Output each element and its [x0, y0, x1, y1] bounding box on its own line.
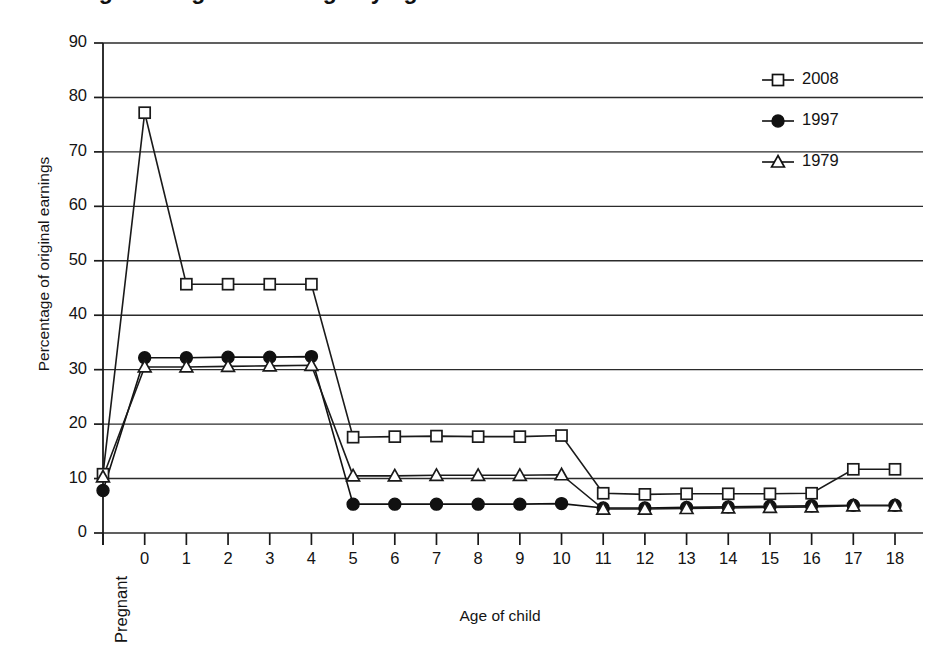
data-marker-filled-circle: [389, 498, 401, 510]
data-marker-open-square: [431, 431, 442, 442]
data-marker-open-square: [723, 488, 734, 499]
x-tick-label-9: 9: [500, 549, 540, 568]
data-marker-filled-circle: [430, 498, 442, 510]
data-marker-open-square: [764, 488, 775, 499]
x-tick-label-8: 8: [458, 549, 498, 568]
legend-label-2008: 2008: [802, 69, 839, 88]
x-tick-label-10: 10: [542, 549, 582, 568]
data-marker-filled-circle: [772, 115, 784, 127]
y-tick-label-50: 50: [41, 250, 87, 269]
data-marker-open-square: [773, 75, 784, 86]
y-tick-label-60: 60: [41, 195, 87, 214]
data-marker-open-square: [223, 279, 234, 290]
data-marker-open-square: [890, 464, 901, 475]
x-tick-label-14: 14: [708, 549, 748, 568]
x-tick-label-12: 12: [625, 549, 665, 568]
data-marker-open-square: [639, 489, 650, 500]
data-marker-filled-circle: [514, 498, 526, 510]
x-tick-label-18: 18: [875, 549, 915, 568]
x-tick-label-17: 17: [833, 549, 873, 568]
y-tick-label-70: 70: [41, 141, 87, 160]
data-marker-open-square: [139, 107, 150, 118]
legend-label-1997: 1997: [802, 110, 839, 129]
x-tick-label-3: 3: [250, 549, 290, 568]
data-marker-filled-circle: [347, 498, 359, 510]
y-tick-label-80: 80: [41, 86, 87, 105]
data-marker-filled-circle: [556, 498, 568, 510]
data-marker-filled-circle: [97, 485, 109, 497]
data-marker-open-square: [514, 431, 525, 442]
y-tick-label-40: 40: [41, 304, 87, 323]
x-tick-label-13: 13: [667, 549, 707, 568]
x-tick-label-2: 2: [208, 549, 248, 568]
x-tick-label-7: 7: [416, 549, 456, 568]
data-marker-filled-circle: [472, 498, 484, 510]
data-marker-open-square: [556, 430, 567, 441]
series-line-1997: [103, 357, 895, 508]
x-tick-label-15: 15: [750, 549, 790, 568]
y-tick-label-20: 20: [41, 413, 87, 432]
data-marker-open-square: [598, 488, 609, 499]
data-marker-open-square: [806, 488, 817, 499]
chart-figure: Percentage of original earnings by age o…: [0, 0, 931, 652]
data-marker-open-square: [473, 431, 484, 442]
data-marker-open-square: [181, 279, 192, 290]
y-tick-label-10: 10: [41, 468, 87, 487]
data-marker-open-square: [264, 279, 275, 290]
x-tick-label-4: 4: [291, 549, 331, 568]
x-tick-label-5: 5: [333, 549, 373, 568]
data-marker-open-square: [681, 488, 692, 499]
data-marker-open-square: [348, 432, 359, 443]
data-marker-open-square: [848, 464, 859, 475]
x-axis-label: Age of child: [390, 607, 610, 625]
y-tick-label-30: 30: [41, 359, 87, 378]
x-tick-label-11: 11: [583, 549, 623, 568]
x-tick-label-6: 6: [375, 549, 415, 568]
series-line-2008: [103, 113, 895, 495]
legend-label-1979: 1979: [802, 151, 839, 170]
y-tick-label-90: 90: [41, 32, 87, 51]
data-marker-open-square: [389, 431, 400, 442]
data-marker-open-square: [306, 279, 317, 290]
x-tick-label-16: 16: [792, 549, 832, 568]
x-tick-label-0: 0: [125, 549, 165, 568]
y-tick-label-0: 0: [41, 522, 87, 541]
x-tick-label-1: 1: [166, 549, 206, 568]
